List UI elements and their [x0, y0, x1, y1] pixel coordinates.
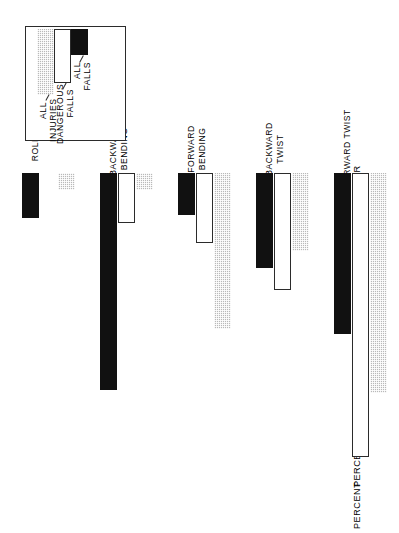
legend-label-all-falls: ALL FALLS — [72, 62, 92, 112]
bar-all-falls-backward-bending — [100, 173, 117, 390]
bar-all-injuries-backward-bending — [136, 173, 153, 190]
bar-dangerous-falls-backward-bending — [118, 173, 135, 223]
chart-plot-area: PERCENT PERCENT OF FALL TYPES — VIDEO AN… — [0, 0, 399, 533]
rotated-figure-canvas: PERCENT PERCENT OF FALL TYPES — VIDEO AN… — [0, 0, 399, 533]
bar-dangerous-falls-forward-twist — [352, 173, 369, 457]
bar-all-injuries-forward-bending — [214, 173, 231, 329]
bar-dangerous-falls-forward-bending — [196, 173, 213, 243]
bar-all-falls-forward-twist — [334, 173, 351, 334]
value-axis-title: PERCENT — [352, 482, 362, 529]
bar-all-injuries-forward-twist — [370, 173, 387, 393]
legend-swatch-all-falls — [71, 29, 88, 55]
bar-all-injuries-roll — [58, 173, 75, 190]
bar-all-falls-roll — [22, 173, 39, 218]
bar-all-falls-backward-twist — [256, 173, 273, 268]
legend-swatch-dangerous-falls — [54, 29, 71, 83]
bar-all-falls-forward-bending — [178, 173, 195, 215]
bar-all-injuries-backward-twist — [292, 173, 309, 251]
legend-swatch-all-injuries — [37, 29, 54, 95]
legend: ALL INJURIES DANGEROUS FALLS ALL FALLS — [25, 26, 126, 141]
bar-dangerous-falls-backward-twist — [274, 173, 291, 290]
